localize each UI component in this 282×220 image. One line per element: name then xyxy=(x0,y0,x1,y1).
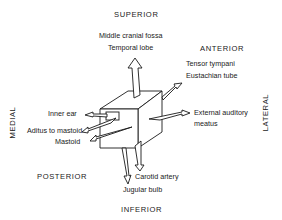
label-middle-cranial-fossa: Middle cranial fossa xyxy=(99,32,163,40)
label-carotid-artery: Carotid artery xyxy=(135,173,179,181)
anterior-arrow xyxy=(162,83,182,100)
label-eustachian-tube: Eustachian tube xyxy=(186,72,238,80)
direction-medial: MEDIAL xyxy=(8,107,17,139)
label-tensor-tympani: Tensor tympani xyxy=(186,60,235,68)
label-mastoid: Mastoid xyxy=(55,138,80,146)
carotid-arrow xyxy=(135,141,144,171)
jugular-arrow xyxy=(122,148,131,184)
direction-superior: SUPERIOR xyxy=(114,10,158,19)
label-external-auditory: External auditory xyxy=(194,109,248,117)
label-jugular-bulb: Jugular bulb xyxy=(123,186,162,194)
direction-posterior: POSTERIOR xyxy=(37,172,87,181)
inner-ear-window xyxy=(106,112,119,120)
direction-anterior: ANTERIOR xyxy=(200,44,244,53)
label-temporal-lobe: Temporal lobe xyxy=(108,44,153,52)
label-meatus: meatus xyxy=(194,120,218,128)
direction-lateral: LATERAL xyxy=(261,94,270,131)
label-aditus-to-mastoid: Aditus to mastoid xyxy=(27,127,82,135)
label-inner-ear: Inner ear xyxy=(48,110,77,118)
direction-inferior: INFERIOR xyxy=(121,205,162,214)
